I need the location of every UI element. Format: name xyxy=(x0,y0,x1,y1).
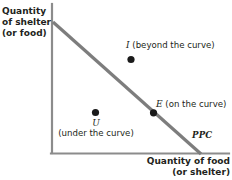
point-label-e: E (on the curve) xyxy=(156,99,226,109)
point-caption-u: (under the curve) xyxy=(58,128,134,138)
ppc-diagram: Quantity of shelter (or food) Quantity o… xyxy=(0,0,232,180)
point-caption-e: (on the curve) xyxy=(163,99,227,109)
point-symbol-u: U xyxy=(54,118,138,128)
x-axis-title-line-1: Quantity of food xyxy=(147,156,230,166)
point-label-u: U(under the curve) xyxy=(54,118,138,138)
ppc-curve-label: PPC xyxy=(192,130,212,141)
data-point-I xyxy=(127,56,134,63)
point-symbol-e: E xyxy=(156,99,163,109)
data-point-E xyxy=(150,109,157,116)
point-label-i: I (beyond the curve) xyxy=(126,40,215,50)
y-axis-title-line-2: of shelter xyxy=(2,17,51,27)
y-axis-title: Quantity of shelter (or food) xyxy=(2,6,48,39)
y-axis-title-line-3: (or food) xyxy=(2,28,47,38)
point-caption-i: (beyond the curve) xyxy=(130,40,215,50)
x-axis-title: Quantity of food (or shelter) xyxy=(120,156,230,178)
data-point-U xyxy=(92,109,99,116)
x-axis-title-line-2: (or shelter) xyxy=(172,167,230,177)
y-axis-title-line-1: Quantity xyxy=(2,6,46,16)
